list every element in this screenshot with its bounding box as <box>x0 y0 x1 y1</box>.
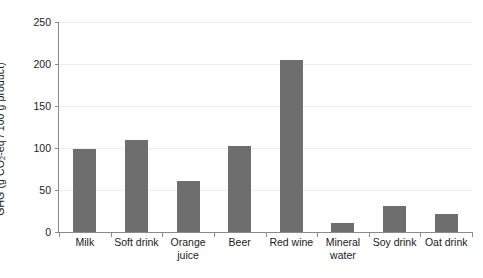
y-axis-tick-label: 150 <box>11 100 59 112</box>
y-axis-tick <box>55 190 59 191</box>
bar <box>331 223 354 232</box>
x-axis-tick-label-line: Oat drink <box>415 236 477 249</box>
gridline <box>59 190 472 191</box>
x-axis-tick-label: Oat drink <box>415 236 477 249</box>
y-axis-tick <box>55 22 59 23</box>
bar <box>73 149 96 232</box>
y-axis-tick-label: 50 <box>11 184 59 196</box>
gridline <box>59 106 472 107</box>
gridline <box>59 22 472 23</box>
x-axis-tick-label-line: juice <box>157 249 219 262</box>
bar <box>435 214 458 232</box>
bar <box>383 206 406 232</box>
gridline <box>59 148 472 149</box>
y-axis-tick-labels: 050100150200250 <box>0 22 59 232</box>
y-axis-tick-label: 100 <box>11 142 59 154</box>
bar <box>280 60 303 232</box>
y-axis-tick-label: 250 <box>11 16 59 28</box>
bar <box>125 140 148 232</box>
plot-area <box>59 22 472 232</box>
y-axis-tick-label: 200 <box>11 58 59 70</box>
bar <box>177 181 200 232</box>
y-axis-line <box>58 22 59 233</box>
x-axis-tick-label-line: water <box>312 249 374 262</box>
y-axis-tick <box>55 106 59 107</box>
bar-chart: GHG (g CO2-eq / 100 g product) 050100150… <box>0 0 483 278</box>
bar <box>228 146 251 232</box>
y-axis-tick-label: 0 <box>11 226 59 238</box>
y-axis-tick <box>55 64 59 65</box>
x-axis-tick-labels: MilkSoft drinkOrangejuiceBeerRed wineMin… <box>59 236 472 276</box>
y-axis-tick <box>55 148 59 149</box>
gridline <box>59 64 472 65</box>
